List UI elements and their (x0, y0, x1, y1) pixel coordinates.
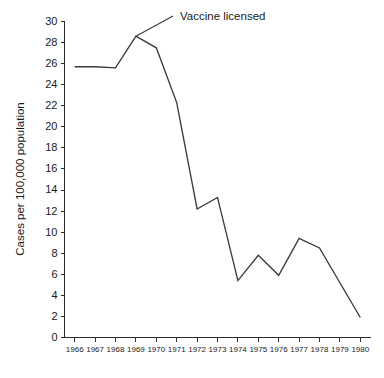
x-tick-label: 1969 (127, 345, 145, 354)
x-tick-label: 1976 (270, 345, 288, 354)
y-tick-label: 16 (45, 162, 57, 174)
y-tick-label: 2 (51, 310, 57, 322)
x-tick-label: 1978 (311, 345, 329, 354)
x-tick-label: 1975 (249, 345, 267, 354)
y-tick-label: 6 (51, 268, 57, 280)
line-chart-svg: 024681012141618202224262830 196619671968… (0, 0, 384, 378)
y-tick-label: 8 (51, 247, 57, 259)
chart-container: 024681012141618202224262830 196619671968… (0, 0, 384, 378)
y-tick-label: 28 (45, 36, 57, 48)
y-tick-label: 20 (45, 120, 57, 132)
y-axis-title-group: Cases per 100,000 population (14, 102, 26, 255)
x-tick-label: 1973 (209, 345, 227, 354)
y-axis-title: Cases per 100,000 population (14, 102, 26, 255)
y-tick-label: 10 (45, 226, 57, 238)
y-tick-label: 22 (45, 99, 57, 111)
x-tick-label: 1980 (351, 345, 369, 354)
annotation-label: Vaccine licensed (180, 10, 265, 22)
y-tick-label: 0 (51, 331, 57, 343)
y-tick-label: 12 (45, 205, 57, 217)
x-tick-label: 1974 (229, 345, 247, 354)
x-tick-label: 1972 (188, 345, 206, 354)
x-tick-label: 1971 (168, 345, 186, 354)
y-tick-label: 24 (45, 78, 57, 90)
x-tick-label: 1970 (147, 345, 165, 354)
y-tick-label: 14 (45, 183, 57, 195)
x-tick-label: 1979 (331, 345, 349, 354)
y-tick-label: 4 (51, 289, 57, 301)
x-tick-label: 1977 (290, 345, 308, 354)
y-tick-label: 30 (45, 15, 57, 27)
x-tick-label: 1968 (107, 345, 125, 354)
x-tick-label: 1966 (66, 345, 84, 354)
y-tick-label: 18 (45, 141, 57, 153)
y-tick-label: 26 (45, 57, 57, 69)
x-tick-label: 1967 (86, 345, 104, 354)
chart-background (0, 0, 384, 378)
